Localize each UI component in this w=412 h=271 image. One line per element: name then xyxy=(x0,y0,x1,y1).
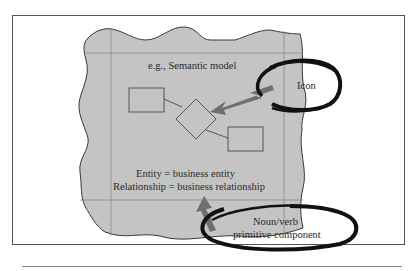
diagram-canvas xyxy=(0,0,412,271)
noun-verb-callout-line1: Noun/verb xyxy=(253,216,298,228)
noun-verb-callout-line2: primitive component xyxy=(233,229,321,241)
diagram-figure: e.g., Semantic model Entity = business e… xyxy=(0,0,412,271)
entity-definition: Entity = business entity xyxy=(136,168,235,180)
region-label: e.g., Semantic model xyxy=(148,60,236,72)
entity-box-2 xyxy=(228,127,263,151)
icon-callout-label: Icon xyxy=(297,80,316,92)
entity-box-1 xyxy=(129,88,164,112)
separator-line xyxy=(22,266,402,267)
relationship-definition: Relationship = business relationship xyxy=(113,181,265,193)
